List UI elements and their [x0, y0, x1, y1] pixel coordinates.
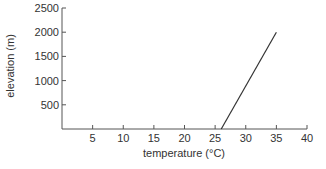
plot-area: 5001000150020002500 510152025303540 — [35, 2, 314, 144]
x-tick-label: 5 — [90, 132, 96, 144]
y-tick-label: 500 — [41, 99, 59, 111]
y-tick-label: 1500 — [35, 50, 59, 62]
y-tick-label: 2500 — [35, 2, 59, 14]
x-tick-label: 25 — [209, 132, 221, 144]
y-tick-label: 2000 — [35, 26, 59, 38]
x-tick-label: 20 — [178, 132, 190, 144]
y-axis-title: elevation (m) — [4, 34, 16, 98]
chart: 5001000150020002500 510152025303540 temp… — [0, 0, 326, 169]
x-tick-label: 10 — [117, 132, 129, 144]
y-tick-label: 1000 — [35, 75, 59, 87]
x-axis-title: temperature (°C) — [143, 147, 225, 159]
data-line — [221, 32, 276, 129]
y-ticks: 5001000150020002500 — [35, 2, 66, 111]
x-tick-label: 40 — [301, 132, 313, 144]
x-tick-label: 35 — [270, 132, 282, 144]
x-ticks: 510152025303540 — [90, 125, 314, 144]
x-tick-label: 15 — [148, 132, 160, 144]
x-tick-label: 30 — [240, 132, 252, 144]
